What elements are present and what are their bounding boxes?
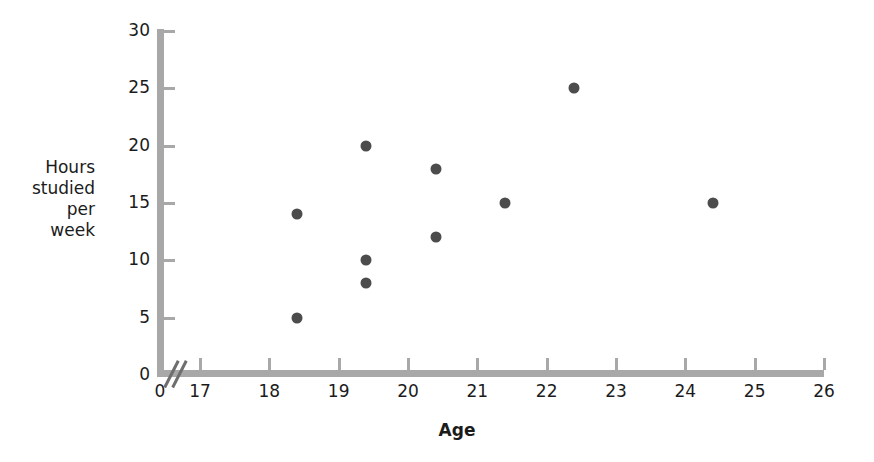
data-point bbox=[430, 232, 441, 243]
data-point bbox=[292, 312, 303, 323]
data-point bbox=[708, 198, 719, 209]
data-point bbox=[569, 83, 580, 94]
data-point bbox=[292, 209, 303, 220]
data-point bbox=[361, 140, 372, 151]
scatter-plot-figure: 051015202530 17181920212223242526 0 Hour… bbox=[0, 0, 874, 462]
data-point bbox=[361, 278, 372, 289]
data-point bbox=[500, 198, 511, 209]
data-point bbox=[430, 163, 441, 174]
plot-area bbox=[0, 0, 874, 462]
data-point bbox=[361, 255, 372, 266]
